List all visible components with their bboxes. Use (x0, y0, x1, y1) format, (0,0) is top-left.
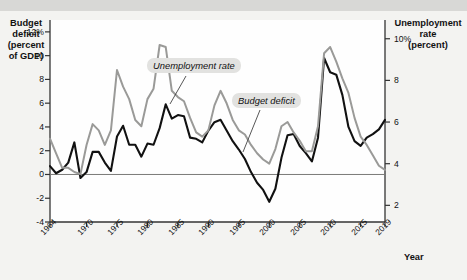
right-axis-tick-label: 10% (394, 34, 411, 44)
figure-container: Budget deficit (percent of GDP) Unemploy… (0, 0, 467, 280)
series-label-unemployment-rate: Unemployment rate (147, 58, 241, 73)
left-axis-tick-label: 2 (8, 146, 44, 156)
left-axis-tick-label: 10 (8, 51, 44, 61)
series-label-budget-deficit: Budget deficit (232, 93, 301, 108)
right-axis-tick-label: 8 (394, 75, 399, 85)
right-axis-tick-label: 6 (394, 117, 399, 127)
left-axis-tick-label: -2 (8, 193, 44, 203)
left-axis-tick-label: 4 (8, 122, 44, 132)
right-axis-tick-label: 2 (394, 200, 399, 210)
left-axis-tick-label: -4 (8, 217, 44, 227)
left-axis-tick-label: 8 (8, 74, 44, 84)
right-axis-tick-label: 4 (394, 159, 399, 169)
left-axis-tick-label: 12% (8, 27, 44, 37)
left-axis-tick-label: 0 (8, 169, 44, 179)
left-axis-tick-label: 6 (8, 98, 44, 108)
